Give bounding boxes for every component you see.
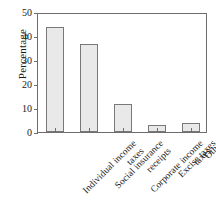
y-tick-label: 20 xyxy=(22,79,32,91)
y-tick-label: 10 xyxy=(22,103,32,115)
bar-chart-figure: Percentage 01020304050 Individual income… xyxy=(0,0,216,215)
bar xyxy=(46,27,64,132)
y-tick-mark xyxy=(34,37,38,38)
x-tick-mark xyxy=(123,128,124,132)
y-tick-mark xyxy=(34,109,38,110)
y-tick-mark xyxy=(34,133,38,134)
x-tick-mark xyxy=(89,128,90,132)
x-tick-mark xyxy=(191,128,192,132)
y-tick-label: 30 xyxy=(22,55,32,67)
y-tick-mark xyxy=(34,13,38,14)
y-tick-label: 50 xyxy=(22,7,32,19)
bar xyxy=(80,44,98,132)
y-tick-label: 40 xyxy=(22,31,32,43)
y-tick-mark xyxy=(34,85,38,86)
y-tick-label: 0 xyxy=(27,127,32,139)
x-tick-mark xyxy=(157,128,158,132)
plot-area: 01020304050 xyxy=(37,13,207,133)
x-tick-mark xyxy=(55,128,56,132)
y-tick-mark xyxy=(34,61,38,62)
